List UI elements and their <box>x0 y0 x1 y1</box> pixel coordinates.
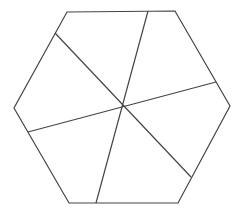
diagram-canvas <box>0 0 241 214</box>
cut-lines <box>28 11 216 203</box>
cut-line-3 <box>28 82 216 132</box>
cut-line-2 <box>55 33 191 177</box>
hexagon-diagram <box>0 0 241 214</box>
